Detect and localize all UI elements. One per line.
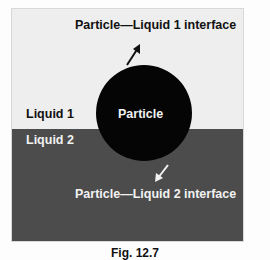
arrow-down-left-icon [153, 163, 171, 183]
particle-label: Particle [118, 107, 163, 121]
interface-2-label: Particle—Liquid 2 interface [75, 187, 236, 201]
three-phase-diagram: Particle—Liquid 1 interface Liquid 1 Par… [11, 8, 244, 242]
interface-1-label: Particle—Liquid 1 interface [75, 18, 236, 32]
liquid-2-label: Liquid 2 [26, 133, 74, 147]
figure-caption: Fig. 12.7 [0, 246, 270, 260]
arrow-up-right-icon [124, 43, 144, 67]
liquid-1-label: Liquid 1 [26, 107, 74, 121]
